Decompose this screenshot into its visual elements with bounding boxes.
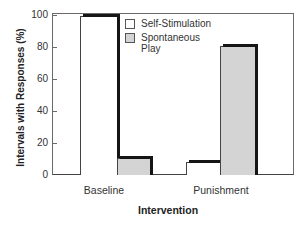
x-category-punishment: Punishment [186, 184, 256, 196]
x-axis-title: Intervention [138, 204, 198, 216]
ytick-label: 40 [26, 106, 48, 116]
ytick-label: 80 [26, 42, 48, 52]
ytick-40 [52, 111, 57, 112]
ytick-100 [52, 15, 57, 16]
ytick-label: 100 [26, 10, 48, 20]
ytick-label: 0 [26, 170, 48, 180]
gray-swatch-icon [125, 33, 135, 43]
y-axis-title: Intervals with Responses (%) [15, 18, 26, 178]
bar-punishment-spontaneous-play [220, 46, 255, 175]
ytick-label: 20 [26, 138, 48, 148]
bar-baseline-spontaneous-play [117, 158, 150, 175]
ytick-80 [52, 47, 57, 48]
legend-item-self-stimulation: Self-Stimulation [125, 18, 221, 29]
bar-punishment-self-stimulation [186, 162, 220, 175]
bar-baseline-self-stimulation [80, 16, 117, 175]
legend-item-spontaneous-play: Spontaneous Play [125, 32, 221, 54]
ytick-60 [52, 79, 57, 80]
ytick-label: 60 [26, 74, 48, 84]
x-category-baseline: Baseline [74, 184, 134, 196]
ytick-20 [52, 143, 57, 144]
white-swatch-icon [125, 19, 135, 29]
legend: Self-Stimulation Spontaneous Play [125, 18, 221, 57]
